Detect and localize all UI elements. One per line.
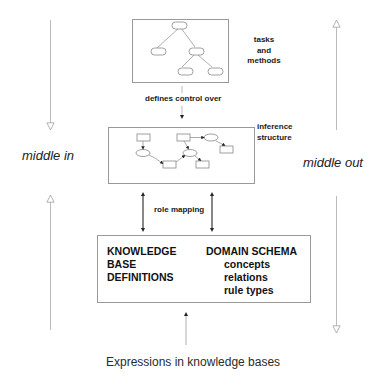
task-layer-label: tasks and methods: [244, 35, 284, 67]
domain-schema-items: concepts relations rule types: [206, 258, 297, 297]
knowledge-base-definitions: KNOWLEDGE BASE DEFINITIONS: [107, 245, 176, 284]
task-layer-box: [133, 20, 229, 83]
caption: Expressions in knowledge bases: [106, 355, 280, 369]
diagram-graphics: [0, 0, 387, 388]
domain-schema-title: DOMAIN SCHEMA: [206, 245, 297, 258]
inference-layer-label: inference structure: [257, 122, 293, 143]
inference-layer-box: [109, 128, 255, 184]
middle-in-label: middle in: [22, 148, 74, 163]
domain-schema: DOMAIN SCHEMA concepts relations rule ty…: [206, 245, 297, 297]
middle-out-label: middle out: [303, 155, 363, 170]
role-mapping-label: role mapping: [154, 205, 204, 216]
defines-control-label: defines control over: [145, 94, 221, 105]
